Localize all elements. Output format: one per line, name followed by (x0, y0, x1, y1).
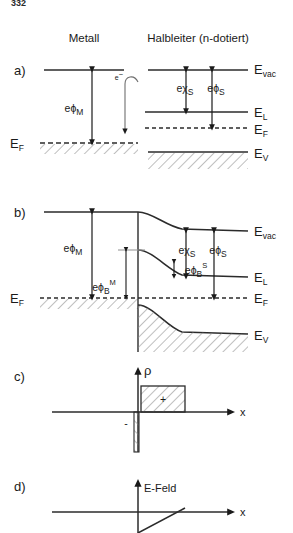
panel-a-metal-fill (40, 144, 138, 154)
panel-b-metal-fill (40, 299, 138, 309)
panel-c-x-axis-label: x (240, 406, 246, 418)
panel-label-d: d) (14, 479, 26, 494)
panel-label-c: c) (14, 369, 25, 384)
panel-a-valence-fill (148, 153, 248, 169)
cropped-page-number: 332 (11, 0, 26, 8)
panel-c-negative-charge-sheet (134, 412, 139, 452)
column-title-semiconductor: Halbleiter (n-dotiert) (147, 32, 249, 44)
panel-c-negative-sign: - (124, 417, 128, 429)
panel-d-y-axis-label: E-Feld (144, 482, 176, 494)
panel-label-b: b) (14, 205, 26, 220)
panel-label-a: a) (14, 63, 26, 78)
figure-canvas: 332 Metall Halbleiter (n-dotiert) a) eϕM… (0, 0, 293, 533)
panel-c-positive-sign: + (160, 393, 166, 405)
background (0, 0, 293, 533)
band-diagram-svg: 332 Metall Halbleiter (n-dotiert) a) eϕM… (0, 0, 293, 533)
panel-d-x-axis-label: x (240, 506, 246, 518)
panel-c-y-axis-label: ρ (144, 363, 151, 378)
column-title-metal: Metall (69, 32, 100, 44)
